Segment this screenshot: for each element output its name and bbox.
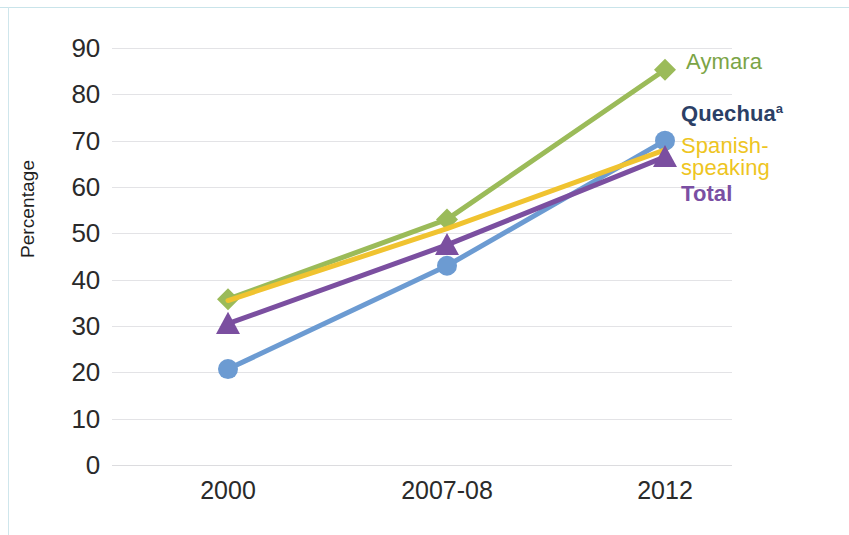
y-axis-tick-label: 20: [14, 359, 100, 385]
plot-area: [112, 48, 732, 465]
legend-label-quechua: Quechuaa: [681, 103, 783, 125]
y-axis: 9080706050403020100: [0, 48, 100, 465]
series-lines: [112, 48, 732, 465]
gridline: [112, 465, 732, 466]
y-axis-tick-label: 30: [14, 313, 100, 339]
y-axis-tick-label: 80: [14, 81, 100, 107]
y-axis-tick-label: 90: [14, 35, 100, 61]
y-axis-tick-label: 0: [14, 452, 100, 478]
y-axis-tick-label: 10: [14, 406, 100, 432]
legend-label-aymara: Aymara: [686, 51, 762, 73]
data-point-marker: [218, 359, 238, 379]
legend-label-superscript: a: [776, 101, 783, 116]
x-axis-tick-label: 2007-08: [401, 478, 493, 503]
x-axis-tick-label: 2012: [637, 478, 693, 503]
legend-label-total: Total: [681, 183, 732, 205]
x-axis: 20002007-082012: [112, 478, 732, 512]
legend-label-spanish: Spanish- speaking: [681, 135, 770, 180]
figure-container: 9080706050403020100 Percentage 20002007-…: [0, 0, 849, 535]
data-point-marker: [437, 256, 457, 276]
x-axis-tick-label: 2000: [200, 478, 256, 503]
y-axis-title: Percentage: [17, 119, 39, 299]
frame-top-rule: [0, 7, 849, 8]
